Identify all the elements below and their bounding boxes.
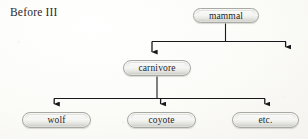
edge-carnivore-bus <box>54 77 265 99</box>
node-coyote-label: coyote <box>148 115 174 125</box>
node-wolf-label: wolf <box>47 115 65 125</box>
edge-mammal-bus <box>152 24 286 42</box>
node-wolf[interactable]: wolf <box>22 112 91 128</box>
node-mammal[interactable]: mammal <box>193 8 259 23</box>
node-carnivore[interactable]: carnivore <box>123 60 191 76</box>
node-carnivore-label: carnivore <box>138 63 175 73</box>
node-etc[interactable]: etc. <box>232 112 299 128</box>
node-etc-label: etc. <box>258 115 272 125</box>
node-mammal-label: mammal <box>209 11 243 21</box>
diagram-canvas: Before III <box>0 0 308 139</box>
node-coyote[interactable]: coyote <box>127 112 196 128</box>
